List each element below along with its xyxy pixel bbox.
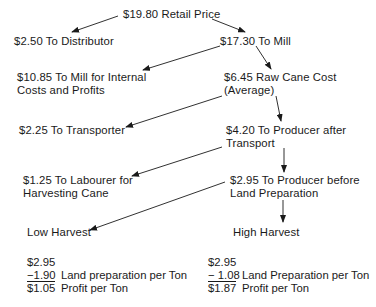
calc-high-minus-label: Land Preparation per Ton <box>242 269 369 283</box>
arrow-mill-to-internal <box>143 46 220 70</box>
arrow-retail-to-distributor <box>72 16 118 32</box>
calc-high-minus: − 1.08 <box>208 269 236 283</box>
node-producer-after-transport: $4.20 To Producer after Transport <box>226 124 346 150</box>
calc-high-harvest: $2.95 − 1.08 Land Preparation per Ton $1… <box>208 256 369 295</box>
calc-low-minus-label: Land preparation per Ton <box>61 269 187 283</box>
calc-low-harvest: $2.95 −1.90 Land preparation per Ton $1.… <box>27 256 187 295</box>
arrow-raw-cane-to-producer <box>276 96 281 121</box>
node-producer-after-line2: Transport <box>226 137 346 150</box>
arrow-producer-to-labourer <box>132 147 222 176</box>
node-raw-cane-cost: $6.45 Raw Cane Cost (Average) <box>224 71 336 97</box>
calc-low-result: $1.05 <box>27 282 55 295</box>
node-producer-before-line2: Land Preparation <box>230 187 360 200</box>
node-low-harvest: Low Harvest <box>27 226 91 239</box>
calc-high-start: $2.95 <box>208 256 236 269</box>
calc-high-result-label: Profit per Ton <box>242 282 309 295</box>
node-labourer: $1.25 To Labourer for Harvesting Cane <box>23 174 133 200</box>
node-labourer-line1: $1.25 To Labourer for <box>23 174 133 187</box>
arrow-raw-cane-to-transporter <box>126 96 222 127</box>
node-producer-before-line1: $2.95 To Producer before <box>230 174 360 187</box>
node-transporter: $2.25 To Transporter <box>19 124 125 137</box>
node-mill: $17.30 To Mill <box>220 35 291 48</box>
node-labourer-line2: Harvesting Cane <box>23 187 133 200</box>
calc-low-result-label: Profit per Ton <box>61 282 128 295</box>
calc-low-minus: −1.90 <box>27 269 55 283</box>
calc-high-result: $1.87 <box>208 282 236 295</box>
node-producer-before-land-prep: $2.95 To Producer before Land Preparatio… <box>230 174 360 200</box>
node-raw-cane-line1: $6.45 Raw Cane Cost <box>224 71 336 84</box>
node-retail-price: $19.80 Retail Price <box>123 8 220 21</box>
arrow-mill-to-raw-cane <box>256 46 271 69</box>
calc-low-start: $2.95 <box>27 256 55 269</box>
node-producer-after-line1: $4.20 To Producer after <box>226 124 346 137</box>
node-high-harvest: High Harvest <box>233 226 300 239</box>
node-raw-cane-line2: (Average) <box>224 84 336 97</box>
node-distributor: $2.50 To Distributor <box>14 35 114 48</box>
node-mill-internal: $10.85 To Mill for Internal Costs and Pr… <box>17 71 146 97</box>
node-mill-internal-line2: Costs and Profits <box>17 84 146 97</box>
node-mill-internal-line1: $10.85 To Mill for Internal <box>17 71 146 84</box>
